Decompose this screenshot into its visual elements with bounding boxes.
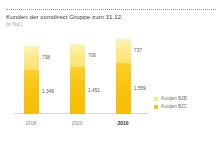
top-divider <box>6 9 216 10</box>
chart-subtitle: (in Tsd.) <box>6 22 22 28</box>
chart-figure: Kunden der comdirect Gruppe zum 31.12. (… <box>0 0 222 160</box>
bar-segment-b2b[interactable]: 706 <box>70 44 85 67</box>
bar-value-b2b: 738 <box>42 55 50 61</box>
legend-label-b2c: Kunden B2C <box>161 104 187 110</box>
bar-group-2010: 737 1.559 <box>116 39 131 114</box>
legend-swatch-icon <box>154 97 158 101</box>
bar-segment-b2c[interactable]: 1.559 <box>116 63 131 114</box>
chart-title: Kunden der comdirect Gruppe zum 31.12. <box>6 13 123 21</box>
bar-segment-b2b[interactable]: 737 <box>116 39 131 63</box>
bar-value-b2c: 1.349 <box>42 89 54 95</box>
legend-item-b2c[interactable]: Kunden B2C <box>154 104 216 110</box>
x-axis-label-2008: 2008 <box>8 120 54 126</box>
legend-item-b2b[interactable]: Kunden B2B <box>154 96 216 102</box>
bar-group-2008: 738 1.349 <box>24 46 39 114</box>
bar-segment-b2b[interactable]: 738 <box>24 46 39 70</box>
plot-area: 738 1.349 706 1.451 737 1.559 2008 <box>0 34 222 138</box>
chart-legend: Kunden B2B Kunden B2C <box>154 96 216 112</box>
legend-swatch-icon <box>154 105 158 109</box>
bar-value-b2b: 737 <box>134 48 142 54</box>
bar-segment-b2c[interactable]: 1.451 <box>70 67 85 114</box>
x-axis-label-2010: 2010 <box>100 120 146 126</box>
bar-segment-b2c[interactable]: 1.349 <box>24 70 39 114</box>
bar-group-2009: 706 1.451 <box>70 44 85 114</box>
bar-value-b2c: 1.559 <box>134 86 146 92</box>
bar-value-b2c: 1.451 <box>88 88 100 94</box>
bar-value-b2b: 706 <box>88 53 96 59</box>
x-axis-label-2009: 2009 <box>54 120 100 126</box>
legend-label-b2b: Kunden B2B <box>161 96 187 102</box>
